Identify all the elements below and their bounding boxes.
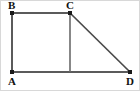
vertices-group <box>10 11 132 74</box>
vertex-dot-b <box>10 11 14 15</box>
edges-group <box>12 13 130 72</box>
edge-cd <box>70 13 130 72</box>
figure-canvas <box>0 0 140 91</box>
vertex-dot-d <box>128 70 132 74</box>
vertex-dot-c <box>68 11 72 15</box>
vertex-dot-a <box>10 70 14 74</box>
vertex-label-c: C <box>66 0 74 11</box>
vertex-label-a: A <box>8 76 16 87</box>
vertex-label-b: B <box>8 0 15 11</box>
geometry-figure: BCAD <box>0 0 140 91</box>
vertex-label-d: D <box>126 76 134 87</box>
